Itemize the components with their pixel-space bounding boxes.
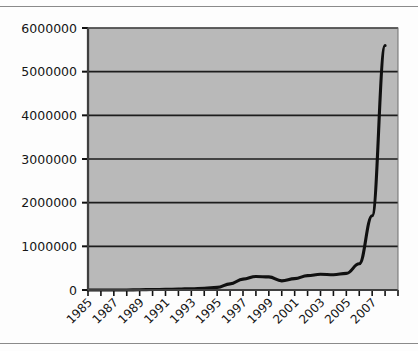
y-tick-label: 5000000 — [21, 64, 77, 79]
x-tick-label: 1995 — [193, 295, 224, 326]
line-chart-figure: 0100000020000003000000400000050000006000… — [0, 10, 418, 342]
page-bottom-rule — [0, 343, 418, 344]
x-tick-label: 1989 — [115, 295, 146, 326]
x-tick-label: 1987 — [89, 295, 120, 326]
x-tick-label: 1993 — [167, 295, 198, 326]
y-tick-label: 1000000 — [21, 239, 77, 254]
x-axis-tick-labels: 1985198719891991199319951997199920012003… — [64, 295, 380, 326]
x-tick-label: 2001 — [270, 295, 301, 326]
y-tick-label: 3000000 — [21, 152, 77, 167]
y-tick-label: 4000000 — [21, 108, 77, 123]
x-tick-label: 2003 — [296, 295, 327, 326]
y-tick-label: 6000000 — [21, 21, 77, 36]
chart-page: 0100000020000003000000400000050000006000… — [0, 0, 418, 351]
x-tick-label: 1999 — [244, 295, 275, 326]
y-axis-tick-labels: 0100000020000003000000400000050000006000… — [21, 21, 77, 298]
y-tick-label: 0 — [69, 283, 77, 298]
y-tick-label: 2000000 — [21, 195, 77, 210]
x-tick-label: 1991 — [141, 295, 172, 326]
page-top-rule — [0, 6, 418, 7]
chart-svg: 0100000020000003000000400000050000006000… — [0, 10, 418, 342]
x-tick-label: 1997 — [219, 295, 250, 326]
x-tick-label: 2007 — [348, 295, 379, 326]
x-tick-label: 2005 — [322, 295, 353, 326]
x-tick-label: 1985 — [64, 295, 95, 326]
